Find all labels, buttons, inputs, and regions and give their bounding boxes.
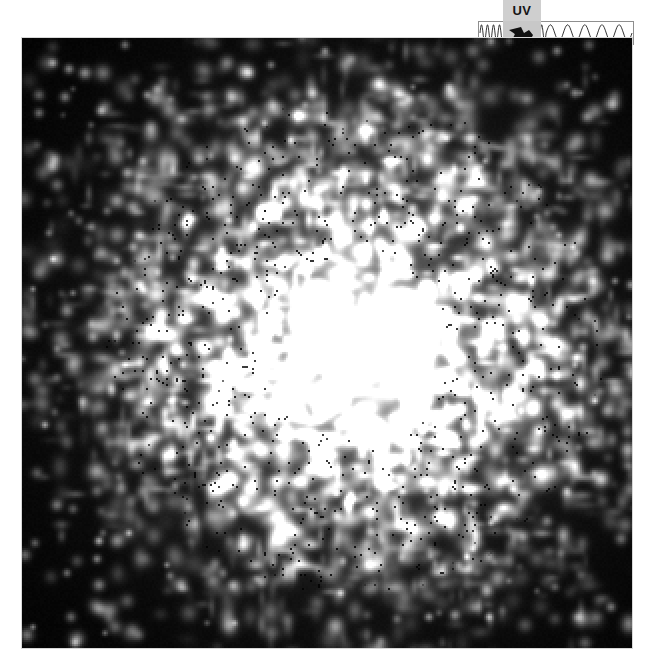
uv-galaxy-image [22,38,632,648]
galaxy-pixel-canvas [22,38,632,648]
page-root: UV [0,0,650,664]
uv-band-label: UV [503,0,541,21]
